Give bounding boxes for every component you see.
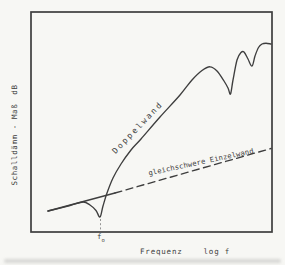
figure-canvas: Schalldämm - Maß dB Frequenz log f fo Do… xyxy=(0,0,285,265)
x-axis-label: Frequenz log f xyxy=(140,248,230,256)
y-axis-label: Schalldämm - Maß dB xyxy=(11,84,19,185)
x-axis-label-text: Frequenz xyxy=(140,248,183,256)
y-axis-label-text: Schalldämm - Maß xyxy=(11,104,19,186)
f0-subscript: o xyxy=(102,237,105,243)
y-axis-unit: dB xyxy=(11,84,19,94)
scan-artifact-strip xyxy=(4,259,281,263)
f0-tick-label: fo xyxy=(97,233,105,243)
x-axis-unit: log f xyxy=(204,248,231,256)
doppelwand-curve xyxy=(48,43,271,217)
chart-svg xyxy=(0,0,285,265)
plot-border xyxy=(31,12,272,232)
